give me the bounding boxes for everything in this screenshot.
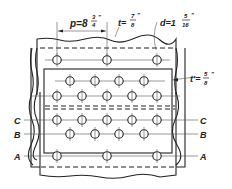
section-label-a-left: A: [13, 152, 21, 162]
rivet: [153, 89, 161, 103]
rivet: [91, 127, 99, 141]
rivet: [66, 74, 74, 88]
diameter-label: d=1: [160, 18, 176, 28]
thickness-label: t=: [118, 18, 127, 28]
rivet: [153, 113, 161, 127]
rivet: [53, 89, 61, 103]
rivet: [140, 127, 148, 141]
thickness-unit: ": [137, 12, 140, 18]
rivet: [103, 53, 111, 67]
rivet: [53, 113, 61, 127]
cover-strap: [44, 69, 172, 153]
section-label-b-right: B: [200, 130, 207, 140]
strap-fraction-num: 5: [204, 71, 208, 77]
rivet: [53, 53, 61, 67]
rivet: [78, 89, 86, 103]
pitch-arrow-left: [58, 30, 63, 33]
diameter-fraction-den: 16: [182, 22, 189, 28]
rivet: [103, 89, 111, 103]
rivet: [91, 74, 99, 88]
rivet: [103, 113, 111, 127]
rivet: [128, 89, 136, 103]
thickness-leader: [115, 27, 119, 37]
section-label-b-left: B: [14, 130, 21, 140]
pitch-arrow-right: [101, 30, 106, 33]
pitch-label: p=8: [69, 18, 88, 29]
section-label-a-right: A: [199, 152, 207, 162]
strap-fraction-den: 8: [204, 80, 208, 86]
bottom-plate-outline: [40, 92, 176, 178]
rivet: [153, 149, 161, 163]
diameter-unit: ": [191, 12, 194, 18]
rivet: [115, 74, 123, 88]
rivet: [140, 74, 148, 88]
thickness-fraction-den: 8: [131, 22, 135, 28]
outer-frame: [31, 48, 185, 167]
rivet: [78, 113, 86, 127]
rivet: [115, 127, 123, 141]
rivet: [103, 149, 111, 163]
rivet: [128, 113, 136, 127]
strap-unit: ": [211, 71, 214, 77]
pitch-fraction-den: 4: [91, 22, 96, 28]
lap-joint-diagram: p=8 3 4 " t= 7 8 " d=1 5 16 " t'= 5 8 " …: [0, 0, 232, 189]
pitch-fraction-num: 3: [92, 14, 96, 20]
section-label-c-left: C: [14, 116, 21, 126]
pitch-unit: ": [98, 14, 101, 20]
rivet: [66, 127, 74, 141]
diameter-fraction-num: 5: [184, 13, 188, 19]
top-plate-outline: [37, 35, 176, 95]
rivet: [53, 149, 61, 163]
section-label-c-right: C: [200, 116, 207, 126]
thickness-fraction-num: 7: [131, 13, 135, 19]
left-break-line-2: [33, 48, 39, 160]
strap-thickness-label: t'=: [190, 74, 201, 84]
rivet: [153, 53, 161, 67]
